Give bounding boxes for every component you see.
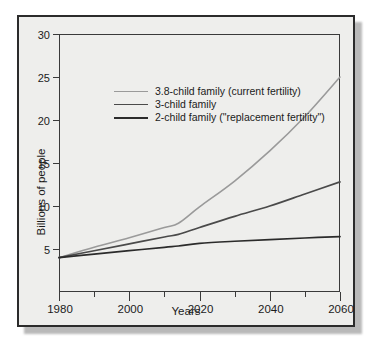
x-tick-1980: 1980 [59, 292, 60, 301]
plot-area: 30 25 20 15 10 5 1980 2000 [59, 34, 340, 292]
x-tick-2050 [305, 292, 306, 297]
x-tick-2020: 2020 [200, 292, 201, 301]
figure-plate: Billions of people 30 25 20 15 10 5 [17, 15, 355, 327]
y-tick-label-25: 25 [38, 73, 50, 84]
legend: 3.8-child family (current fertility) 3-c… [114, 85, 325, 124]
x-tick-2010 [164, 292, 165, 297]
y-tick-label-15: 15 [38, 159, 50, 170]
figure-container: Billions of people 30 25 20 15 10 5 [0, 0, 374, 353]
y-tick-label-5: 5 [44, 245, 50, 256]
legend-item-2-child: 2-child family ("replacement fertility") [114, 111, 325, 124]
legend-label-38-child: 3.8-child family (current fertility) [155, 86, 301, 97]
legend-swatch-38-child [114, 91, 148, 92]
x-tick-2040: 2040 [270, 292, 271, 301]
legend-item-3-child: 3-child family [114, 98, 325, 111]
legend-label-2-child: 2-child family ("replacement fertility") [155, 112, 325, 123]
x-axis-title: Years [19, 305, 353, 317]
y-axis-title-container: Billions of people [35, 132, 49, 252]
x-tick-2060: 2060 [340, 292, 341, 301]
x-tick-2030 [235, 292, 236, 297]
series-line-2-child [59, 237, 340, 258]
y-tick-label-30: 30 [38, 30, 50, 41]
x-tick-2000: 2000 [129, 292, 130, 301]
y-tick-label-20: 20 [38, 116, 50, 127]
chart-series-layer [59, 34, 340, 292]
series-line-3-child [59, 182, 340, 258]
legend-label-3-child: 3-child family [155, 99, 216, 110]
legend-swatch-2-child [114, 117, 148, 119]
legend-swatch-3-child [114, 104, 148, 105]
y-tick-label-10: 10 [38, 202, 50, 213]
x-tick-1990 [94, 292, 95, 297]
legend-item-38-child: 3.8-child family (current fertility) [114, 85, 325, 98]
